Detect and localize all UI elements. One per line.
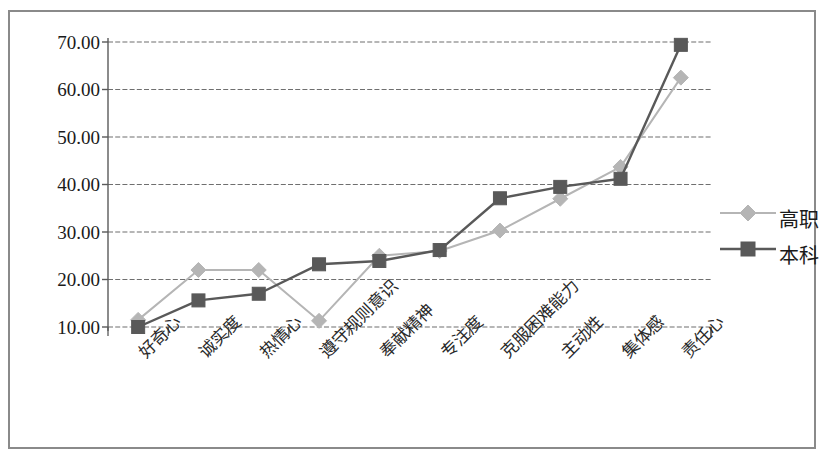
legend-marker-diamond [740,205,756,221]
data-point-本科-诚实度 [192,294,205,307]
data-point-本科-克服困难能力 [493,192,506,205]
data-point-高职-责任心 [673,70,688,85]
series-layer [131,38,689,333]
data-point-本科-热情心 [252,287,265,300]
gridlines [102,42,711,337]
series-line-高职 [138,78,681,321]
data-point-本科-好奇心 [132,321,145,334]
data-point-本科-集体感 [614,172,627,185]
data-point-高职-克服困难能力 [492,223,507,238]
data-point-本科-责任心 [674,38,687,51]
legend-label-gaozhi: 高职 [779,204,819,233]
legend-label-benke: 本科 [779,240,819,269]
data-point-本科-奉献精神 [373,254,386,267]
data-point-本科-主动性 [554,180,567,193]
data-point-本科-遵守规则意识 [313,258,326,271]
series-line-本科 [138,45,681,327]
data-point-本科-专注度 [433,244,446,257]
plot-area [0,0,827,459]
line-chart: 70.00 60.00 50.00 40.00 30.00 20.00 10.0… [0,0,827,459]
legend-marker-square [741,242,755,256]
legend-markers [720,205,776,256]
